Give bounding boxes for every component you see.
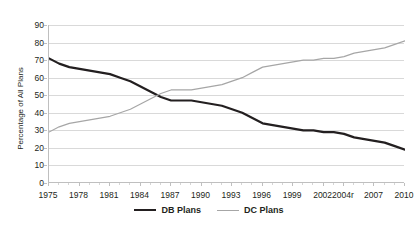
x-tick-label: 1978	[69, 190, 88, 200]
y-tick-mark	[44, 78, 47, 79]
x-tick-label: 1987	[161, 190, 180, 200]
legend-label: DB Plans	[161, 205, 201, 215]
x-tick-label: 1993	[222, 190, 241, 200]
x-minor-tick-mark	[68, 183, 69, 185]
x-tick-label: 1999	[283, 190, 302, 200]
x-tick-mark	[292, 183, 293, 186]
series-line-dc-plans	[49, 41, 405, 132]
x-minor-tick-mark	[99, 183, 100, 185]
x-tick-label: 2010	[395, 190, 414, 200]
x-minor-tick-mark	[384, 183, 385, 185]
x-tick-mark	[48, 183, 49, 186]
x-minor-tick-mark	[333, 183, 334, 185]
x-tick-label: 1990	[191, 190, 210, 200]
x-minor-tick-mark	[312, 183, 313, 185]
y-tick-label: 80	[0, 38, 44, 48]
x-tick-mark	[323, 183, 324, 186]
y-tick-mark	[44, 130, 47, 131]
x-tick-mark	[79, 183, 80, 186]
x-tick-label: 2007	[364, 190, 383, 200]
x-axis: 1975197819811984198719901993199619992002…	[48, 183, 404, 205]
y-tick-label: 60	[0, 73, 44, 83]
x-tick-mark	[109, 183, 110, 186]
x-minor-tick-mark	[221, 183, 222, 185]
x-tick-label: 1981	[100, 190, 119, 200]
y-tick-mark	[44, 95, 47, 96]
y-tick-mark	[44, 60, 47, 61]
legend-item-db-plans[interactable]: DB Plans	[134, 205, 201, 215]
chart-legend: DB PlansDC Plans	[0, 205, 418, 215]
x-minor-tick-mark	[241, 183, 242, 185]
y-tick-mark	[44, 165, 47, 166]
x-tick-mark	[201, 183, 202, 186]
x-tick-mark	[140, 183, 141, 186]
y-tick-mark	[44, 183, 47, 184]
x-minor-tick-mark	[211, 183, 212, 185]
line-chart: Percentage of All Plans 9080706050403020…	[0, 0, 418, 230]
x-minor-tick-mark	[272, 183, 273, 185]
y-tick-mark	[44, 25, 47, 26]
series-layer	[49, 25, 405, 183]
x-tick-label: 1984	[130, 190, 149, 200]
x-minor-tick-mark	[302, 183, 303, 185]
x-minor-tick-mark	[150, 183, 151, 185]
series-line-db-plans	[49, 58, 405, 149]
x-tick-label: 1996	[252, 190, 271, 200]
legend-line-icon	[217, 210, 239, 211]
x-minor-tick-mark	[251, 183, 252, 185]
x-tick-mark	[262, 183, 263, 186]
x-tick-mark	[404, 183, 405, 186]
x-minor-tick-mark	[89, 183, 90, 185]
x-tick-mark	[373, 183, 374, 186]
x-minor-tick-mark	[129, 183, 130, 185]
legend-item-dc-plans[interactable]: DC Plans	[217, 205, 284, 215]
x-minor-tick-mark	[363, 183, 364, 185]
x-minor-tick-mark	[58, 183, 59, 185]
x-tick-label: 2004r	[332, 190, 354, 200]
y-axis: 9080706050403020100	[0, 25, 44, 183]
x-tick-mark	[231, 183, 232, 186]
y-tick-label: 90	[0, 20, 44, 30]
x-minor-tick-mark	[160, 183, 161, 185]
x-tick-label: 1975	[39, 190, 58, 200]
x-minor-tick-mark	[190, 183, 191, 185]
y-tick-mark	[44, 148, 47, 149]
y-tick-label: 10	[0, 160, 44, 170]
y-tick-label: 40	[0, 108, 44, 118]
y-tick-label: 50	[0, 90, 44, 100]
y-tick-mark	[44, 43, 47, 44]
x-tick-label: 2002	[313, 190, 332, 200]
x-minor-tick-mark	[282, 183, 283, 185]
plot-area	[48, 25, 404, 183]
y-tick-label: 20	[0, 143, 44, 153]
x-minor-tick-mark	[394, 183, 395, 185]
x-minor-tick-mark	[353, 183, 354, 185]
x-minor-tick-mark	[119, 183, 120, 185]
y-tick-label: 70	[0, 55, 44, 65]
y-tick-mark	[44, 113, 47, 114]
x-tick-mark	[170, 183, 171, 186]
x-tick-mark	[343, 183, 344, 186]
x-minor-tick-mark	[180, 183, 181, 185]
legend-line-icon	[134, 209, 156, 211]
y-tick-label: 0	[0, 178, 44, 188]
legend-label: DC Plans	[244, 205, 284, 215]
y-tick-label: 30	[0, 125, 44, 135]
